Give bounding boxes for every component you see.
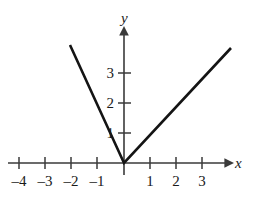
x-tick-label-1: 1 <box>140 174 160 189</box>
x-axis-label: x <box>235 156 242 171</box>
x-tick-label--3: –3 <box>33 174 57 189</box>
x-tick-label-3: 3 <box>192 174 212 189</box>
y-tick-label-3: 3 <box>98 66 114 81</box>
y-tick-label-2: 2 <box>98 96 114 111</box>
x-tick-label--2: –2 <box>59 174 83 189</box>
coordinate-plane <box>0 0 253 202</box>
absolute-value-curve <box>70 45 231 163</box>
y-axis-label: y <box>121 11 128 26</box>
x-tick-label-2: 2 <box>166 174 186 189</box>
x-tick-label--1: –1 <box>85 174 109 189</box>
y-tick-label-1: 1 <box>98 126 114 141</box>
graph-figure: –4 –3 –2 –1 1 2 3 1 2 3 x y <box>0 0 253 202</box>
x-tick-label--4: –4 <box>7 174 31 189</box>
